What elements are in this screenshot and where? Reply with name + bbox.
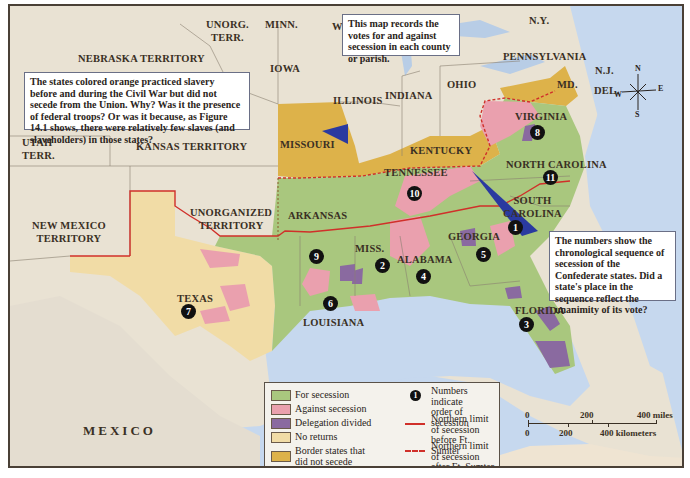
label-iowa: IOWA: [270, 62, 300, 75]
secession-marker-louisiana: 6: [323, 296, 338, 311]
label-nj: N.J.: [595, 64, 614, 77]
legend-delegation-divided: Delegation divided: [295, 417, 371, 428]
secession-marker-florida: 3: [519, 317, 534, 332]
swatch-border-states: [271, 451, 291, 462]
legend-no-returns: No returns: [295, 431, 338, 442]
callout-votes-note: This map records the votes for and again…: [342, 14, 460, 56]
label-texas: TEXAS: [177, 292, 213, 305]
legend-for-secession: For secession: [295, 389, 349, 400]
label-virginia: VIRGINIA: [515, 110, 567, 123]
label-alabama: ALABAMA: [397, 253, 453, 266]
scale-tick: [608, 423, 609, 427]
label-ohio: OHIO: [447, 78, 476, 91]
numbers-symbol: 1: [410, 390, 421, 401]
label-georgia: GEORGIA: [448, 230, 500, 243]
secession-marker-alabama: 4: [416, 269, 431, 284]
label-new-mexico-territory: NEW MEXICOTERRITORY: [32, 219, 106, 245]
scale-tick: [568, 423, 569, 427]
secession-marker-north-carolina: 11: [543, 170, 558, 185]
swatch-delegation-divided: [271, 418, 291, 429]
map-frame: UNORG.TERR. MINN. WIS. MICHIGAN N.Y. NEB…: [8, 4, 684, 468]
label-nebraska-territory: NEBRASKA TERRITORY: [78, 52, 205, 65]
callout-numbers-note: The numbers show the chronological seque…: [549, 231, 676, 301]
secession-marker-texas: 7: [181, 304, 196, 319]
swatch-against-secession: [271, 404, 291, 415]
secession-marker-south-carolina: 1: [508, 220, 523, 235]
label-minn: MINN.: [265, 18, 298, 31]
scale-miles-400: 400 miles: [637, 410, 673, 420]
label-louisiana: LOUISIANA: [303, 316, 364, 329]
label-pennsylvania: PENNSYLVANIA: [503, 50, 587, 63]
label-mexico: MEXICO: [83, 424, 156, 437]
label-kentucky: KENTUCKY: [410, 144, 472, 157]
label-missouri: MISSOURI: [280, 138, 335, 151]
secession-marker-tennessee: 10: [407, 186, 422, 201]
label-unorganized-territory: UNORGANIZEDTERRITORY: [190, 206, 272, 232]
label-tennessee: TENNESSEE: [384, 166, 448, 179]
scale-tick: [592, 420, 593, 424]
secession-marker-mississippi: 2: [375, 258, 390, 273]
scale-km-0: 0: [525, 428, 530, 438]
label-arkansas: ARKANSAS: [288, 209, 347, 222]
label-south-carolina: SOUTHCAROLINA: [503, 194, 562, 220]
scale-tick: [528, 420, 529, 427]
compass-south: S: [635, 110, 639, 119]
legend-border-states: Border states thatdid not secede: [295, 445, 365, 467]
map-legend: For secession Against secession Delegati…: [264, 382, 500, 468]
compass-east: E: [658, 84, 663, 93]
callout-border-states-note: The states colored orange practiced slav…: [24, 72, 250, 130]
label-ny: N.Y.: [529, 14, 549, 27]
legend-against-secession: Against secession: [295, 403, 366, 414]
label-miss: MISS.: [355, 242, 384, 255]
legend-limit-after: Northern limit of secessionafter Ft. Sum…: [431, 441, 499, 468]
swatch-no-returns: [271, 432, 291, 443]
label-north-carolina: NORTH CAROLINA: [506, 158, 607, 171]
secession-marker-arkansas: 9: [309, 249, 324, 264]
swatch-for-secession: [271, 390, 291, 401]
scale-miles-0: 0: [525, 410, 530, 420]
compass-north: N: [635, 64, 641, 73]
scale-km-400: 400 kilometers: [600, 428, 656, 438]
secession-marker-virginia: 8: [530, 125, 545, 140]
label-unorg-terr: UNORG.TERR.: [206, 18, 249, 44]
scale-km-200: 200: [559, 428, 573, 438]
scale-tick: [656, 420, 657, 424]
secession-marker-georgia: 5: [476, 247, 491, 262]
label-md: MD.: [557, 78, 578, 91]
label-illinois: ILLINOIS: [333, 94, 382, 107]
label-indiana: INDIANA: [385, 89, 433, 102]
compass-west: W: [614, 90, 622, 99]
dashed-line-symbol: [405, 450, 425, 452]
scale-miles-200: 200: [580, 410, 594, 420]
solid-line-symbol: [405, 423, 425, 425]
